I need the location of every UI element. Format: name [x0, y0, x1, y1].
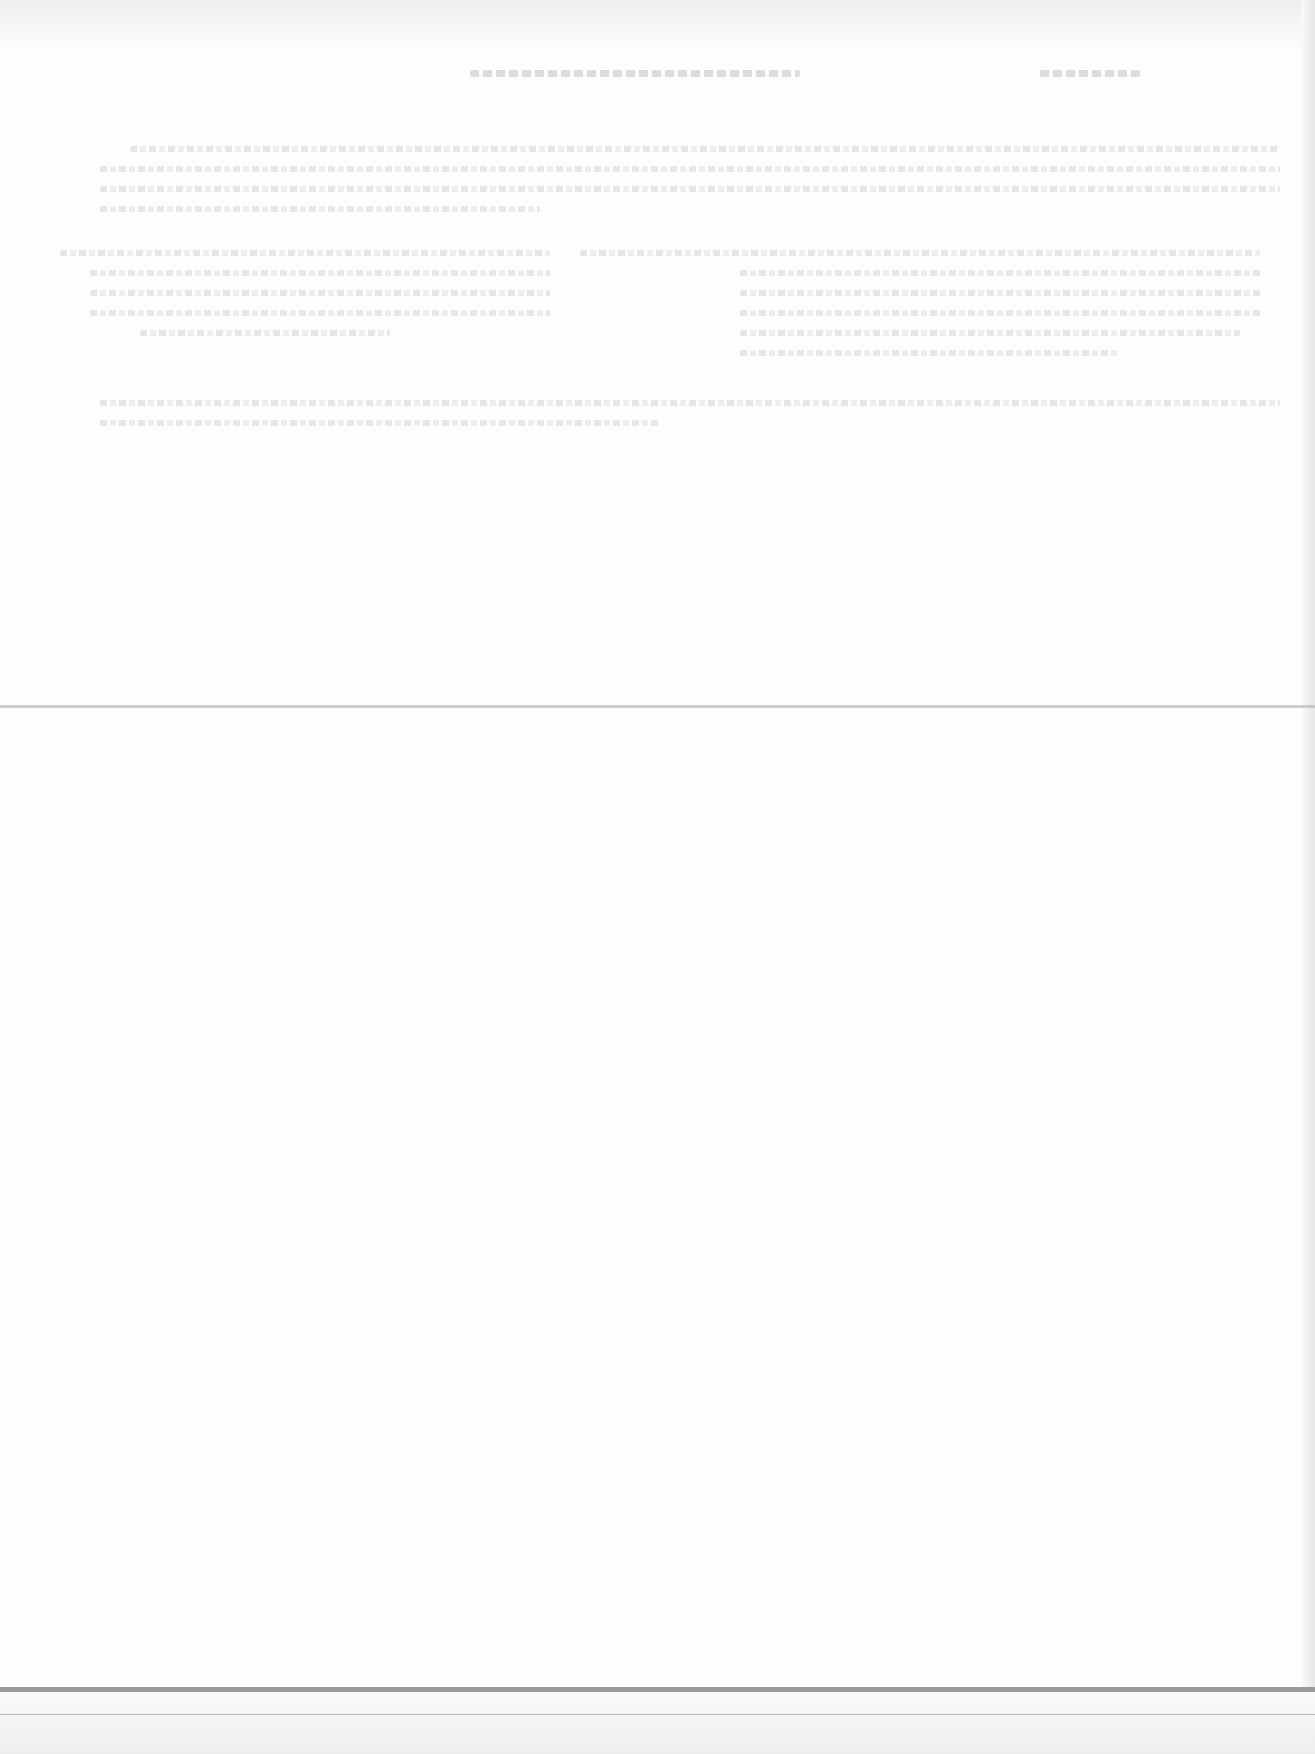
- text-line: [740, 310, 1260, 316]
- text-line: [100, 166, 1280, 172]
- text-line: [740, 330, 1240, 336]
- text-line: [100, 400, 1280, 406]
- bottom-thin-rule: [0, 1714, 1315, 1715]
- text-line: [60, 250, 550, 256]
- scan-top-edge: [0, 0, 1315, 50]
- text-line: [740, 290, 1260, 296]
- text-line: [140, 330, 390, 336]
- text-line: [740, 350, 1120, 356]
- text-line: [90, 290, 550, 296]
- bottom-thick-rule: [0, 1687, 1315, 1692]
- text-line: [130, 146, 1280, 152]
- scan-right-edge: [1301, 0, 1315, 1754]
- middle-divider: [0, 705, 1315, 708]
- text-line: [100, 206, 540, 212]
- text-line: [740, 270, 1260, 276]
- text-line: [100, 186, 1280, 192]
- page-number: [1040, 70, 1140, 77]
- text-line: [100, 420, 660, 426]
- text-line: [90, 310, 550, 316]
- text-line: [90, 270, 550, 276]
- scan-bottom-edge: [0, 1690, 1315, 1754]
- text-line: [580, 250, 1260, 256]
- page-title: [470, 70, 800, 77]
